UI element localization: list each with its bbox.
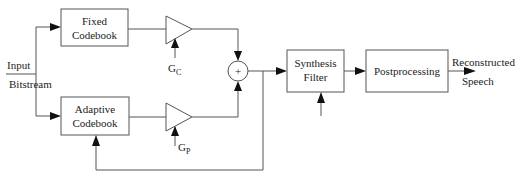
postprocessing-block: Postprocessing — [366, 50, 448, 92]
plus-icon: + — [235, 65, 241, 77]
adaptive-codebook-label-line2: Codebook — [72, 117, 118, 129]
gain-p-label: GP — [178, 141, 191, 156]
input-bitstream: Input Bitstream — [6, 27, 52, 116]
gain-c-label: GC — [168, 62, 181, 77]
fixed-gain-amplifier: GC — [166, 16, 192, 77]
speech-label: Speech — [462, 75, 494, 87]
postprocessing-label: Postprocessing — [374, 65, 441, 77]
output-reconstructed-speech: Reconstructed Speech — [448, 56, 515, 87]
output-arrow-icon — [464, 67, 476, 75]
summing-junction: + — [228, 61, 248, 81]
filter-coefficient-arrow-icon — [317, 92, 325, 103]
fixed-codebook-label-line2: Codebook — [72, 29, 118, 41]
arrow-to-adaptive-codebook — [36, 112, 61, 120]
adaptive-codebook-label-line1: Adaptive — [75, 103, 115, 115]
synthesis-filter-label-line1: Synthesis — [294, 57, 336, 69]
fixed-codebook-block: Fixed Codebook — [61, 9, 128, 46]
adaptive-gain-amplifier: GP — [166, 103, 192, 156]
synthesis-filter-label-line2: Filter — [304, 71, 328, 83]
fixed-codebook-label-line1: Fixed — [82, 15, 108, 27]
adaptive-codebook-block: Adaptive Codebook — [61, 97, 129, 135]
input-label: Input — [7, 59, 30, 71]
celp-decoder-diagram: Input Bitstream Fixed Codebook GC Adapti… — [0, 0, 520, 176]
bitstream-label: Bitstream — [9, 78, 52, 90]
synthesis-filter-block: Synthesis Filter — [287, 50, 344, 116]
arrow-to-fixed-codebook — [36, 23, 61, 31]
reconstructed-label: Reconstructed — [452, 56, 515, 68]
